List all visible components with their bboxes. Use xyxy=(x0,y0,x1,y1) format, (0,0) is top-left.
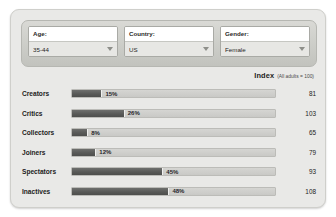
chevron-down-icon[interactable] xyxy=(107,47,113,51)
index-subtitle: (All adults = 100) xyxy=(277,74,314,79)
bar-track: 48% xyxy=(71,187,276,196)
table-row: Critics26%103 xyxy=(11,104,325,124)
filter-group: Age: 35-44 Country: US Gender: xyxy=(28,26,310,57)
filter-gender-select[interactable]: Female xyxy=(221,41,309,56)
bar-fill xyxy=(72,129,88,136)
widget-panel: Age: 35-44 Country: US Gender: xyxy=(10,9,326,208)
bar-value-label: 48% xyxy=(172,188,184,194)
bar-row-label: Inactives xyxy=(11,188,71,195)
bar-fill xyxy=(72,90,102,97)
filter-country-select[interactable]: US xyxy=(125,41,213,56)
bar-row-label: Critics xyxy=(11,110,71,117)
table-row: Spectators45%93 xyxy=(11,162,325,182)
filter-gender[interactable]: Gender: Female xyxy=(220,26,310,57)
filter-gender-label: Gender: xyxy=(221,27,309,41)
bar-track: 26% xyxy=(71,109,276,118)
index-column-header: Index (All adults = 100) xyxy=(254,71,314,80)
bar-track: 15% xyxy=(71,89,276,98)
filter-country[interactable]: Country: US xyxy=(124,26,214,57)
bar-track: 45% xyxy=(71,167,276,176)
filter-country-label: Country: xyxy=(125,27,213,41)
table-row: Inactives48%108 xyxy=(11,182,325,202)
index-value: 93 xyxy=(282,168,325,175)
bar-value-label: 12% xyxy=(99,149,111,155)
bar-value-label: 45% xyxy=(166,169,178,175)
index-value: 103 xyxy=(282,110,325,117)
index-value: 81 xyxy=(282,90,325,97)
chevron-down-icon[interactable] xyxy=(299,47,305,51)
bar-row-label: Creators xyxy=(11,90,71,97)
bar-fill xyxy=(72,188,169,195)
index-value: 108 xyxy=(282,188,325,195)
filter-gender-value: Female xyxy=(225,46,296,53)
filter-age-value: 35-44 xyxy=(33,46,104,53)
table-row: Collectors8%65 xyxy=(11,123,325,143)
bar-value-label: 8% xyxy=(91,130,100,136)
index-value: 79 xyxy=(282,149,325,156)
bar-fill xyxy=(72,149,96,156)
bar-fill xyxy=(72,168,163,175)
filter-age-label: Age: xyxy=(29,27,117,41)
bar-track: 12% xyxy=(71,148,276,157)
table-row: Joiners12%79 xyxy=(11,143,325,163)
filter-age-select[interactable]: 35-44 xyxy=(29,41,117,56)
table-row: Creators15%81 xyxy=(11,84,325,104)
bar-row-label: Spectators xyxy=(11,168,71,175)
bar-value-label: 26% xyxy=(128,110,140,116)
bar-fill xyxy=(72,110,125,117)
index-value: 65 xyxy=(282,129,325,136)
social-technographics-profile-widget: Age: 35-44 Country: US Gender: xyxy=(0,0,336,217)
bar-value-label: 15% xyxy=(105,91,117,97)
bar-chart: Creators15%81Critics26%103Collectors8%65… xyxy=(11,84,325,201)
bar-row-label: Collectors xyxy=(11,129,71,136)
chevron-down-icon[interactable] xyxy=(203,47,209,51)
filter-country-value: US xyxy=(129,46,200,53)
filter-bar: Age: 35-44 Country: US Gender: xyxy=(21,20,317,67)
bar-row-label: Joiners xyxy=(11,149,71,156)
filter-age[interactable]: Age: 35-44 xyxy=(28,26,118,57)
bar-track: 8% xyxy=(71,128,276,137)
index-title: Index xyxy=(254,71,274,80)
